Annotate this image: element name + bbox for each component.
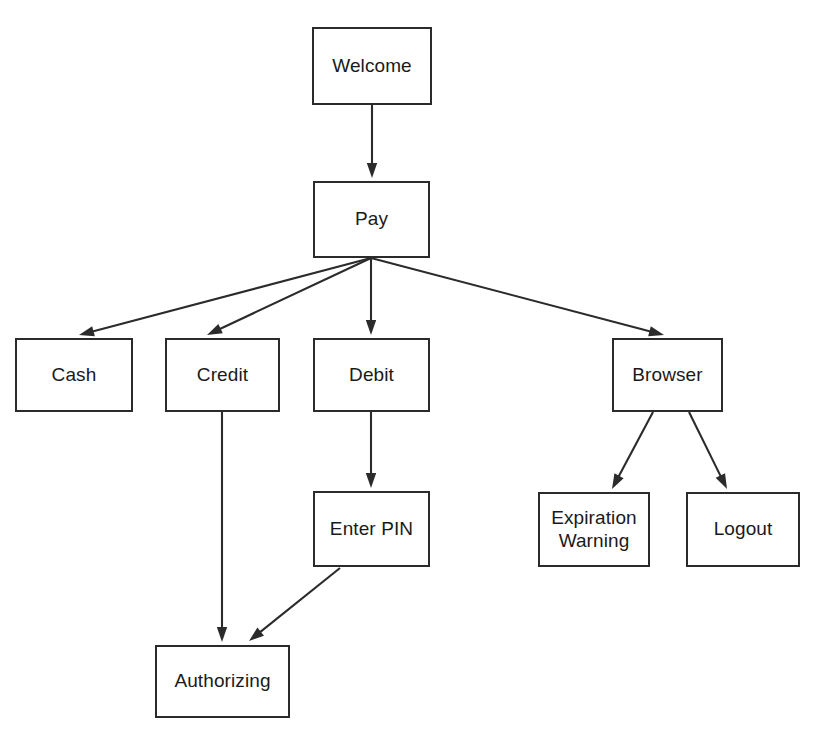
node-label-browser: Browser <box>628 364 706 387</box>
node-label-cash: Cash <box>48 364 101 387</box>
node-label-authorizing: Authorizing <box>170 670 274 693</box>
flowchart-diagram: Welcome Pay Cash Credit Debit Browser En… <box>0 0 823 735</box>
edge-enter-pin-to-authorizing <box>259 568 340 633</box>
node-enter-pin[interactable]: Enter PIN <box>313 491 430 567</box>
arrowhead-icon-pay-to-debit <box>366 320 376 335</box>
node-logout[interactable]: Logout <box>686 492 800 567</box>
arrowhead-icon-browser-to-expiration <box>612 473 624 489</box>
edge-pay-to-browser <box>371 258 651 332</box>
arrowhead-icon-pay-to-cash <box>79 326 95 336</box>
arrowhead-icon-browser-to-logout <box>716 473 727 489</box>
arrowhead-icon-credit-to-authorizing <box>217 627 227 642</box>
edge-pay-to-cash <box>92 258 371 332</box>
node-label-logout: Logout <box>710 518 777 541</box>
node-label-credit: Credit <box>193 364 252 387</box>
node-pay[interactable]: Pay <box>313 181 430 258</box>
node-label-expiration-warning: Expiration Warning <box>547 507 641 553</box>
node-credit[interactable]: Credit <box>165 338 280 412</box>
node-browser[interactable]: Browser <box>612 338 723 412</box>
edge-pay-to-credit <box>219 258 371 329</box>
edge-browser-to-logout <box>689 412 721 477</box>
node-label-debit: Debit <box>345 364 398 387</box>
node-debit[interactable]: Debit <box>313 338 430 412</box>
node-expiration-warning[interactable]: Expiration Warning <box>538 492 650 567</box>
arrowhead-icon-pay-to-credit <box>207 324 223 335</box>
node-label-enter-pin: Enter PIN <box>326 518 417 541</box>
arrowhead-icon-welcome-to-pay <box>367 163 377 178</box>
arrowhead-icon-pay-to-browser <box>648 326 664 336</box>
arrowhead-icon-enter-pin-to-authorizing <box>249 628 264 641</box>
arrowhead-icon-debit-to-enter-pin <box>366 473 376 488</box>
node-welcome[interactable]: Welcome <box>312 27 432 105</box>
node-authorizing[interactable]: Authorizing <box>155 645 290 718</box>
edge-browser-to-expiration <box>618 412 653 478</box>
node-label-pay: Pay <box>351 208 392 231</box>
node-label-welcome: Welcome <box>328 55 416 78</box>
node-cash[interactable]: Cash <box>15 338 133 412</box>
